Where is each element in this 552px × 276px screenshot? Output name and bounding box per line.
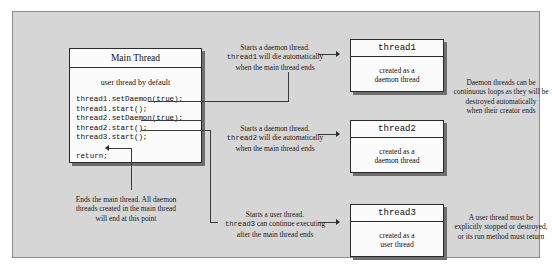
connector-return-arrowhead bbox=[105, 145, 109, 151]
note-thread2-mono: thread2 bbox=[227, 134, 257, 142]
thread2-desc-line1: created as a bbox=[379, 147, 414, 156]
note-thread3-line1: Starts a user thread. bbox=[206, 210, 344, 219]
main-thread-code: thread1.setDaemon(true); thread1.start()… bbox=[76, 95, 201, 143]
note-thread2-line3: when the main thread ends bbox=[209, 144, 341, 153]
connector-thread1-arrowhead bbox=[336, 51, 340, 57]
note-thread2-tail: will die automatically bbox=[257, 133, 323, 142]
main-thread-body: user thread by default thread1.setDaemon… bbox=[70, 78, 201, 172]
note-user-line2: explicitly stopped or destroyed, bbox=[445, 222, 552, 231]
code-line-3: thread2.setDaemon(true); bbox=[76, 114, 201, 124]
connector-thread3-segment-h1 bbox=[141, 130, 210, 131]
note-return-statement: Ends the main thread. All daemon threads… bbox=[43, 195, 209, 223]
thread1-description: created as a daemon thread bbox=[351, 57, 443, 93]
note-thread3-mono: thread3 bbox=[225, 220, 255, 228]
thread2-description: created as a daemon thread bbox=[351, 138, 443, 174]
code-line-2: thread1.start(); bbox=[76, 105, 201, 115]
note-thread1-mono: thread1 bbox=[227, 53, 257, 61]
note-daemon-line1: Daemon threads can be bbox=[445, 78, 552, 87]
note-thread3-line3: after the main thread ends bbox=[206, 230, 344, 239]
note-thread2: Starts a daemon thread. thread2 will die… bbox=[209, 124, 341, 153]
code-line-4: thread2.start(); bbox=[76, 124, 201, 134]
thread2-title: thread2 bbox=[351, 121, 443, 138]
main-thread-box: Main Thread user thread by default threa… bbox=[69, 48, 202, 163]
note-thread3-line2: thread3 can continue executing bbox=[206, 219, 344, 229]
connector-thread3-segment-v1 bbox=[210, 130, 211, 222]
note-daemon-line3: destroyed automatically bbox=[445, 97, 552, 106]
connector-thread1-segment-h1 bbox=[148, 101, 288, 102]
connector-thread1-segment-v1 bbox=[288, 72, 289, 102]
connector-thread1-segment-h3 bbox=[318, 54, 336, 55]
connector-thread2-arrowhead bbox=[336, 131, 340, 137]
thread3-box: thread3 created as a user thread bbox=[350, 204, 444, 257]
main-thread-title: Main Thread bbox=[70, 49, 201, 68]
note-user-rule: A user thread must be explicitly stopped… bbox=[445, 213, 552, 241]
note-daemon-rule: Daemon threads can be continuous loops a… bbox=[445, 78, 552, 115]
note-thread3: Starts a user thread. thread3 can contin… bbox=[206, 210, 344, 239]
connector-return-segment-v1 bbox=[131, 148, 132, 190]
connector-thread3-segment-h3 bbox=[318, 222, 336, 223]
thread3-desc-line2: user thread bbox=[380, 240, 414, 249]
note-return-line1: Ends the main thread. All daemon bbox=[43, 195, 209, 204]
code-line-5: thread3.start(); bbox=[76, 133, 201, 143]
connector-thread3-segment-h2 bbox=[210, 222, 218, 223]
thread-lifecycle-diagram: Main Thread user thread by default threa… bbox=[0, 0, 552, 276]
note-return-line3: will end at this point bbox=[43, 214, 209, 223]
return-statement: return; bbox=[76, 152, 201, 160]
connector-thread3-arrowhead bbox=[336, 219, 340, 225]
note-thread1: Starts a daemon thread. thread1 will die… bbox=[209, 43, 341, 72]
note-user-line3: or its run method must return bbox=[445, 232, 552, 241]
thread2-box: thread2 created as a daemon thread bbox=[350, 120, 444, 173]
note-user-line1: A user thread must be bbox=[445, 213, 552, 222]
thread3-title: thread3 bbox=[351, 205, 443, 222]
note-thread3-tail: can continue executing bbox=[255, 219, 325, 228]
code-line-1: thread1.setDaemon(true); bbox=[76, 95, 201, 105]
thread1-desc-line2: daemon thread bbox=[375, 75, 420, 84]
connector-return-segment-h1 bbox=[109, 148, 132, 149]
note-daemon-line4: when their creator ends bbox=[445, 106, 552, 115]
thread3-description: created as a user thread bbox=[351, 222, 443, 258]
thread1-box: thread1 created as a daemon thread bbox=[350, 39, 444, 92]
thread3-desc-line1: created as a bbox=[379, 231, 414, 240]
thread1-desc-line1: created as a bbox=[379, 66, 414, 75]
main-thread-subtitle: user thread by default bbox=[70, 78, 201, 87]
note-thread2-line1: Starts a daemon thread. bbox=[209, 124, 341, 133]
note-daemon-line2: continuous loops as they will be bbox=[445, 87, 552, 96]
thread2-desc-line2: daemon thread bbox=[375, 156, 420, 165]
note-thread1-tail: will die automatically bbox=[257, 52, 323, 61]
note-thread1-line3: when the main thread ends bbox=[209, 63, 341, 72]
diagram-frame: Main Thread user thread by default threa… bbox=[12, 11, 540, 258]
note-return-line2: threads created in the main thread bbox=[43, 204, 209, 213]
note-thread1-line1: Starts a daemon thread. bbox=[209, 43, 341, 52]
connector-thread2-segment-h1 bbox=[141, 120, 201, 121]
thread1-title: thread1 bbox=[351, 40, 443, 57]
connector-thread2-segment-h2 bbox=[318, 134, 336, 135]
